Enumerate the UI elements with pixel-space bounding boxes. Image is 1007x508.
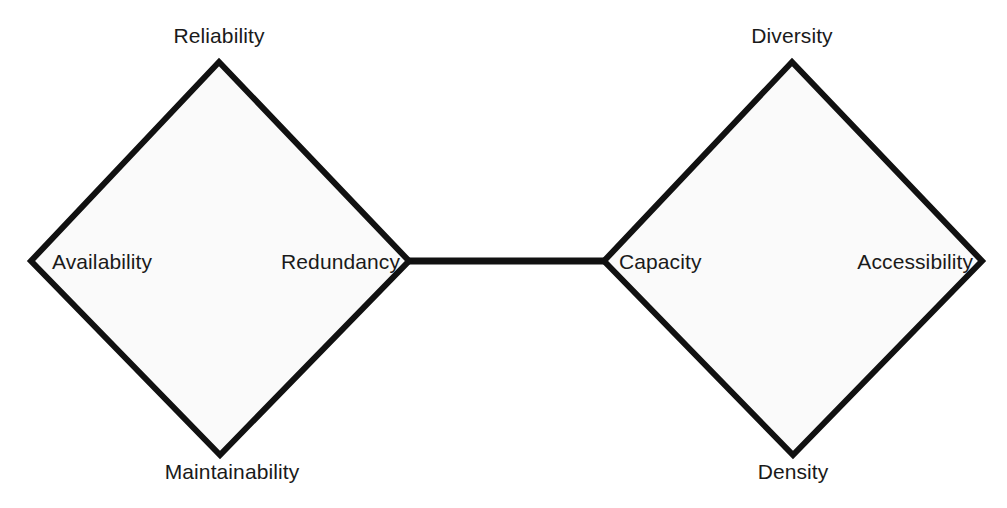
diagram-canvas: Reliability Availability Redundancy Main…	[0, 0, 1007, 508]
label-reliability: Reliability	[174, 25, 265, 46]
label-density: Density	[758, 461, 829, 482]
label-redundancy: Redundancy	[281, 251, 400, 272]
label-availability: Availability	[52, 251, 152, 272]
label-accessibility: Accessibility	[857, 251, 973, 272]
label-maintainability: Maintainability	[165, 461, 300, 482]
label-diversity: Diversity	[751, 25, 832, 46]
label-capacity: Capacity	[619, 251, 702, 272]
